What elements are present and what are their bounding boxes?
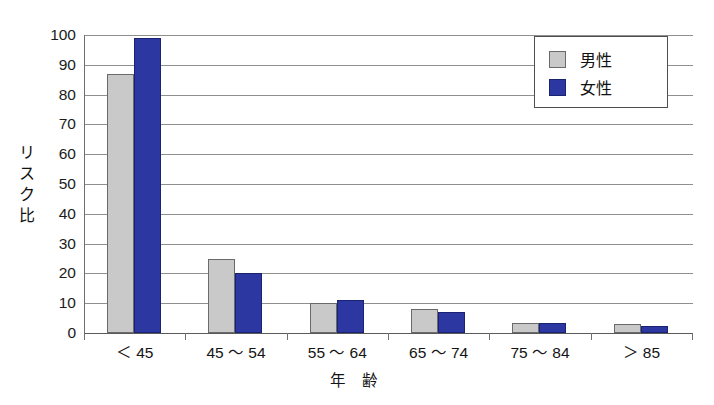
bar-female-2: [337, 300, 364, 333]
y-axis-tick-label: 40: [0, 205, 76, 223]
bar-female-5: [641, 326, 668, 333]
x-axis-category-label: ＞ 85: [586, 340, 696, 362]
bar-male-3: [411, 309, 438, 333]
x-axis-category-label: ＜ 45: [80, 340, 190, 362]
bar-female-4: [539, 323, 566, 333]
x-axis-title: 年 齢: [0, 368, 714, 390]
x-axis-tick: [84, 333, 85, 340]
bar-female-0: [134, 38, 161, 333]
gridline: [85, 333, 693, 334]
y-axis-tick-label: 70: [0, 115, 76, 133]
bar-male-5: [614, 324, 641, 333]
bar-group: [489, 35, 589, 333]
bar-male-1: [208, 259, 235, 334]
bar-group: [287, 35, 387, 333]
bar-female-1: [235, 273, 262, 333]
bar-group: [84, 35, 184, 333]
bar-male-4: [512, 323, 539, 333]
y-axis-tick-label: 10: [0, 294, 76, 312]
x-axis-category-label: 75 〜 84: [485, 340, 595, 362]
x-axis-tick: [185, 333, 186, 340]
bar-male-2: [310, 303, 337, 333]
y-axis-tick-label: 50: [0, 175, 76, 193]
x-axis-tick: [591, 333, 592, 340]
y-axis-tick-label: 30: [0, 235, 76, 253]
y-axis-tick-label: 100: [0, 26, 76, 44]
x-axis-tick: [692, 333, 693, 340]
x-axis-tick: [287, 333, 288, 340]
x-axis-tick: [388, 333, 389, 340]
bar-female-3: [438, 312, 465, 333]
bar-group: [591, 35, 691, 333]
x-axis-tick: [489, 333, 490, 340]
bar-group: [185, 35, 285, 333]
bar-male-0: [107, 74, 134, 333]
y-axis-tick-label: 0: [0, 324, 76, 342]
x-axis-category-label: 45 〜 54: [181, 340, 291, 362]
y-axis-tick-labels: 1009080706050403020100: [0, 0, 80, 405]
y-axis-tick-label: 20: [0, 264, 76, 282]
y-axis-tick-label: 60: [0, 145, 76, 163]
x-axis-category-label: 55 〜 64: [282, 340, 392, 362]
bar-group: [388, 35, 488, 333]
y-axis-tick-label: 90: [0, 56, 76, 74]
bar-chart: リスク比 1009080706050403020100 年 齢 男性 女性 ＜ …: [0, 0, 714, 405]
y-axis-tick-label: 80: [0, 86, 76, 104]
x-axis-category-label: 65 〜 74: [384, 340, 494, 362]
